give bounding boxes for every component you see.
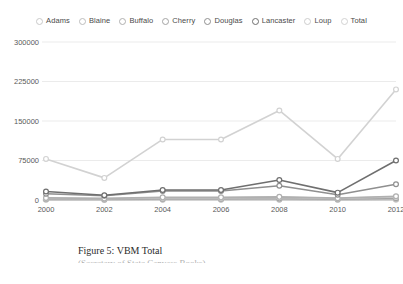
line-chart-svg: 075000150000225000300000 200020022004200… (0, 32, 403, 237)
y-axis-tick-label: 300000 (14, 38, 39, 47)
y-axis-ticks: 075000150000225000300000 (14, 38, 46, 205)
chart-plot-area: 075000150000225000300000 200020022004200… (0, 32, 403, 237)
data-point-total[interactable] (160, 137, 165, 142)
legend-marker-icon (252, 18, 259, 25)
legend-marker-icon (119, 18, 126, 25)
y-axis-tick-label: 225000 (14, 77, 39, 86)
legend-item-adams[interactable]: Adams (36, 17, 70, 25)
legend-item-label: Buffalo (129, 17, 153, 25)
data-point-total[interactable] (394, 87, 399, 92)
chart-legend: AdamsBlaineBuffaloCherryDouglasLancaster… (0, 14, 403, 28)
legend-item-label: Lancaster (262, 17, 296, 25)
legend-marker-icon (204, 18, 211, 25)
legend-marker-icon (304, 18, 311, 25)
legend-marker-icon (36, 18, 43, 25)
x-axis-tick-label: 2010 (329, 205, 346, 214)
data-point-douglas[interactable] (394, 182, 399, 187)
legend-marker-icon (341, 18, 348, 25)
data-point-lancaster[interactable] (102, 193, 107, 198)
legend-item-lancaster[interactable]: Lancaster (252, 17, 296, 25)
data-point-douglas[interactable] (277, 183, 282, 188)
legend-item-label: Cherry (172, 17, 195, 25)
caption-source: (Secretary of State Canvass Books) (78, 257, 378, 263)
x-axis-tick-label: 2002 (96, 205, 113, 214)
figure-caption: Figure 5: VBM Total (Secretary of State … (78, 244, 378, 263)
data-point-buffalo[interactable] (277, 194, 282, 199)
series-group (44, 87, 399, 202)
data-point-lancaster[interactable] (44, 189, 49, 194)
figure-container: AdamsBlaineBuffaloCherryDouglasLancaster… (0, 0, 403, 284)
data-point-buffalo[interactable] (160, 195, 165, 200)
data-point-lancaster[interactable] (394, 158, 399, 163)
legend-item-loup[interactable]: Loup (304, 17, 331, 25)
data-point-lancaster[interactable] (277, 178, 282, 183)
legend-item-label: Loup (314, 17, 331, 25)
data-point-lancaster[interactable] (219, 188, 224, 193)
x-axis-tick-label: 2006 (213, 205, 230, 214)
data-point-total[interactable] (102, 175, 107, 180)
series-line-total (46, 89, 396, 177)
legend-item-label: Total (351, 17, 367, 25)
legend-marker-icon (79, 18, 86, 25)
y-axis-tick-label: 0 (35, 196, 39, 205)
y-axis-tick-label: 75000 (18, 156, 39, 165)
legend-item-douglas[interactable]: Douglas (204, 17, 242, 25)
legend-item-label: Douglas (214, 17, 242, 25)
caption-title: Figure 5: VBM Total (78, 244, 378, 257)
x-axis-tick-label: 2000 (38, 205, 55, 214)
x-axis-tick-label: 2012 (388, 205, 403, 214)
data-point-total[interactable] (335, 157, 340, 162)
data-point-total[interactable] (277, 108, 282, 113)
data-point-total[interactable] (219, 137, 224, 142)
legend-item-cherry[interactable]: Cherry (162, 17, 195, 25)
legend-item-buffalo[interactable]: Buffalo (119, 17, 153, 25)
legend-item-total[interactable]: Total (341, 17, 367, 25)
data-point-lancaster[interactable] (335, 190, 340, 195)
data-point-total[interactable] (44, 157, 49, 162)
x-axis-tick-label: 2008 (271, 205, 288, 214)
legend-item-blaine[interactable]: Blaine (79, 17, 110, 25)
x-axis-ticks: 2000200220042006200820102012 (38, 205, 403, 214)
x-axis-tick-label: 2004 (154, 205, 171, 214)
data-point-lancaster[interactable] (160, 188, 165, 193)
legend-marker-icon (162, 18, 169, 25)
legend-item-label: Blaine (89, 17, 110, 25)
data-point-buffalo[interactable] (219, 195, 224, 200)
data-point-buffalo[interactable] (394, 194, 399, 199)
y-axis-tick-label: 150000 (14, 117, 39, 126)
legend-item-label: Adams (46, 17, 70, 25)
